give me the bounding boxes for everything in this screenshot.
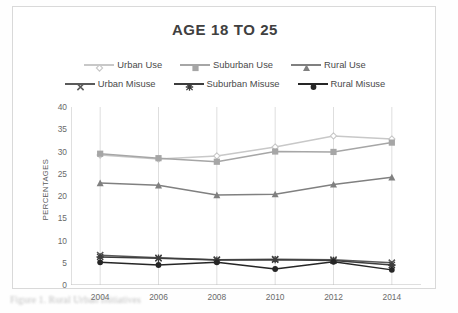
y-tick-label: 20 <box>41 191 67 201</box>
y-tick-label: 0 <box>41 280 67 290</box>
y-axis-ticks: 4035302520151050 <box>41 99 67 289</box>
legend-item-urban-use[interactable]: Urban Use <box>84 59 162 70</box>
legend-item-suburban-misuse[interactable]: Suburban Misuse <box>174 78 280 89</box>
data-point-rural-misuse <box>389 267 395 273</box>
figure-container: AGE 18 TO 25 Urban UseSuburban UseRural … <box>0 0 458 313</box>
figure-caption: Figure 1. Rural Urban Initiatives <box>10 294 450 311</box>
data-point-suburban-use <box>214 159 220 165</box>
triangle-marker-icon <box>291 59 321 70</box>
legend-item-rural-use[interactable]: Rural Use <box>291 59 366 70</box>
y-tick-label: 35 <box>41 124 67 134</box>
legend-item-urban-misuse[interactable]: Urban Misuse <box>65 78 156 89</box>
legend-label: Rural Misuse <box>331 78 386 89</box>
y-tick-label: 30 <box>41 147 67 157</box>
x-marker-icon <box>65 78 95 89</box>
y-tick-label: 25 <box>41 169 67 179</box>
legend-label: Suburban Misuse <box>207 78 280 89</box>
data-point-rural-misuse <box>331 259 337 265</box>
plot-area-wrapper: PERCENTAGES 4035302520151050 20042006200… <box>13 99 437 289</box>
chart-legend: Urban UseSuburban UseRural UseUrban Misu… <box>13 55 437 93</box>
plot-canvas <box>71 107 421 285</box>
y-tick-label: 5 <box>41 258 67 268</box>
data-point-suburban-use <box>272 148 278 154</box>
legend-item-suburban-use[interactable]: Suburban Use <box>180 59 273 70</box>
data-point-suburban-misuse <box>271 256 278 263</box>
data-point-urban-use <box>214 153 220 159</box>
y-tick-label: 10 <box>41 236 67 246</box>
series-line-rural-misuse <box>100 262 392 270</box>
legend-label: Urban Use <box>117 59 162 70</box>
legend-row: Urban MisuseSuburban MisuseRural Misuse <box>13 74 437 93</box>
data-point-suburban-use <box>155 155 161 161</box>
data-point-rural-misuse <box>214 259 220 265</box>
series-line-rural-use <box>100 177 392 195</box>
chart-frame: AGE 18 TO 25 Urban UseSuburban UseRural … <box>12 6 436 289</box>
data-point-suburban-use <box>389 140 395 146</box>
chart-title: AGE 18 TO 25 <box>13 21 437 38</box>
data-point-suburban-misuse <box>155 255 162 262</box>
y-tick-label: 40 <box>41 102 67 112</box>
legend-item-rural-misuse[interactable]: Rural Misuse <box>298 78 386 89</box>
legend-label: Suburban Use <box>213 59 273 70</box>
square-marker-icon <box>180 59 210 70</box>
data-point-suburban-use <box>330 149 336 155</box>
asterisk-marker-icon <box>174 78 204 89</box>
data-point-rural-misuse <box>97 259 103 265</box>
legend-label: Urban Misuse <box>98 78 156 89</box>
data-point-urban-use <box>330 133 336 139</box>
data-point-rural-misuse <box>272 266 278 272</box>
y-tick-label: 15 <box>41 213 67 223</box>
legend-label: Rural Use <box>324 59 366 70</box>
circle-marker-icon <box>298 78 328 89</box>
data-point-suburban-use <box>97 151 103 157</box>
diamond-marker-icon <box>84 59 114 70</box>
legend-row: Urban UseSuburban UseRural Use <box>13 55 437 74</box>
series-line-urban-use <box>100 136 392 159</box>
data-point-rural-misuse <box>156 262 162 268</box>
